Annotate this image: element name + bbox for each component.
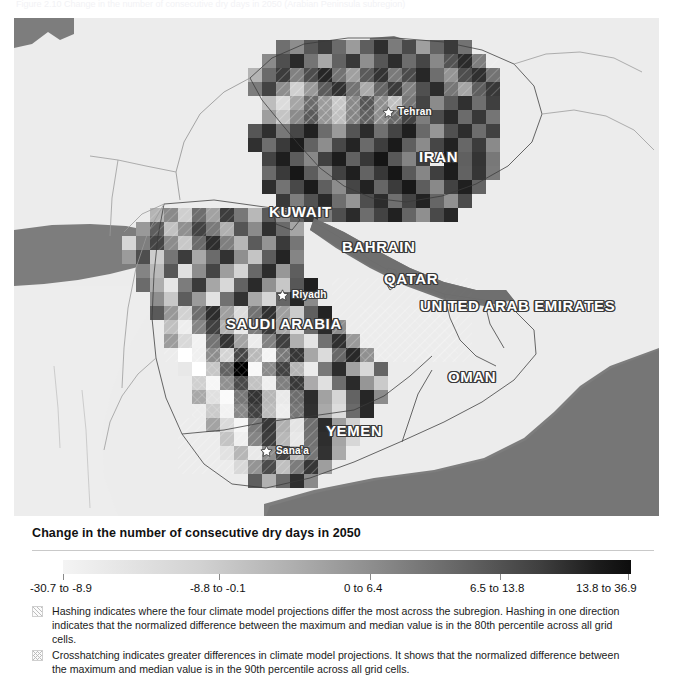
figure-root: Figure 2.10 Change in the number of cons… bbox=[0, 0, 673, 696]
legend-tick bbox=[500, 574, 501, 580]
legend-color-gradient-bar bbox=[63, 560, 631, 574]
legend-tick bbox=[63, 574, 64, 580]
hatch-swatch-icon bbox=[32, 606, 43, 617]
legend-bin-label: 13.8 to 36.9 bbox=[576, 582, 637, 594]
legend: Change in the number of consecutive dry … bbox=[14, 516, 659, 604]
legend-divider bbox=[32, 550, 654, 551]
map-panel[interactable]: IRAN KUWAIT BAHRAIN QATAR UNITED ARAB EM… bbox=[14, 18, 659, 516]
legend-tick bbox=[219, 574, 220, 580]
footnote-crosshatching-text: Crosshatching indicates greater differen… bbox=[52, 648, 632, 676]
map-canvas bbox=[14, 18, 659, 516]
figure-caption-cropped: Figure 2.10 Change in the number of cons… bbox=[0, 0, 673, 14]
legend-bin-label: 0 to 6.4 bbox=[344, 582, 382, 594]
legend-bin-label: 6.5 to 13.8 bbox=[470, 582, 524, 594]
legend-bin-label: -30.7 to -8.9 bbox=[30, 582, 92, 594]
footnote-hashing: Hashing indicates where the four climate… bbox=[14, 604, 659, 647]
footnote-hashing-text: Hashing indicates where the four climate… bbox=[52, 604, 632, 647]
footnote-crosshatching: Crosshatching indicates greater differen… bbox=[14, 648, 659, 676]
legend-tick-group bbox=[63, 574, 631, 580]
legend-title: Change in the number of consecutive dry … bbox=[32, 526, 361, 540]
legend-tick bbox=[628, 574, 629, 580]
crosshatch-swatch-icon bbox=[32, 650, 43, 661]
legend-bin-label: -8.8 to -0.1 bbox=[190, 582, 246, 594]
legend-tick bbox=[370, 574, 371, 580]
legend-bin-labels: -30.7 to -8.9 -8.8 to -0.1 0 to 6.4 6.5 … bbox=[14, 582, 659, 600]
footnotes: Hashing indicates where the four climate… bbox=[14, 604, 659, 690]
